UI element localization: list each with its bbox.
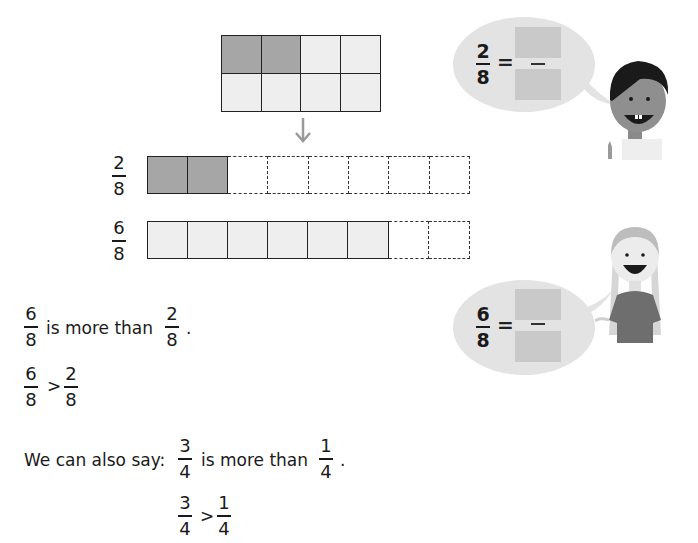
answer-denominator-box[interactable] bbox=[515, 69, 561, 100]
bar-segment-filled bbox=[267, 221, 309, 259]
numerator: 3 bbox=[179, 493, 190, 513]
fraction-line bbox=[531, 63, 545, 65]
statement2-left-fraction: 3 4 bbox=[178, 436, 192, 482]
equals-sign: = bbox=[497, 50, 514, 74]
grid-cell-shaded bbox=[222, 36, 262, 74]
bar-segment-empty bbox=[349, 156, 389, 194]
bar-segment-empty bbox=[268, 156, 308, 194]
grid-cell bbox=[341, 36, 381, 74]
answer-numerator-box[interactable] bbox=[515, 289, 561, 320]
bar-segment-filled bbox=[347, 221, 389, 259]
bar2-fraction-label: 6 8 bbox=[112, 218, 126, 264]
greater-than-symbol: > bbox=[200, 506, 214, 526]
grid-cell bbox=[341, 74, 381, 112]
denominator: 8 bbox=[476, 330, 489, 350]
numerator: 3 bbox=[179, 436, 190, 456]
denominator: 8 bbox=[113, 179, 124, 199]
inequality2-left-fraction: 3 4 bbox=[178, 493, 192, 539]
fraction-line bbox=[531, 323, 545, 325]
denominator: 8 bbox=[166, 330, 177, 350]
numerator: 2 bbox=[113, 153, 124, 173]
bar-segment-empty bbox=[389, 221, 430, 259]
boy-character-illustration bbox=[600, 55, 680, 160]
bubble-boy-fraction: 2 8 bbox=[476, 41, 490, 87]
bar-segment-empty bbox=[228, 156, 268, 194]
denominator: 8 bbox=[113, 244, 124, 264]
denominator: 8 bbox=[476, 67, 489, 87]
denominator: 8 bbox=[25, 390, 36, 410]
numerator: 6 bbox=[113, 218, 124, 238]
denominator: 4 bbox=[218, 519, 229, 539]
statement1-right-fraction: 2 8 bbox=[165, 304, 179, 350]
numerator: 6 bbox=[25, 364, 36, 384]
bar-segment-filled bbox=[227, 221, 269, 259]
fraction-bar-six-eighths bbox=[147, 221, 470, 259]
statement1-left-fraction: 6 8 bbox=[24, 304, 38, 350]
answer-denominator-box[interactable] bbox=[515, 331, 561, 362]
bar-segment-empty bbox=[429, 221, 470, 259]
bar-segment-empty bbox=[309, 156, 349, 194]
grid-cell-shaded bbox=[262, 36, 302, 74]
denominator: 4 bbox=[179, 519, 190, 539]
bubble-girl-fraction: 6 8 bbox=[476, 304, 490, 350]
denominator: 8 bbox=[65, 390, 76, 410]
inequality2-right-fraction: 1 4 bbox=[217, 493, 231, 539]
inequality1-right-fraction: 2 8 bbox=[64, 364, 78, 410]
bar-segment-filled bbox=[147, 221, 189, 259]
numerator: 2 bbox=[166, 304, 177, 324]
denominator: 4 bbox=[179, 462, 190, 482]
numerator: 1 bbox=[218, 493, 229, 513]
bar-segment-empty bbox=[430, 156, 470, 194]
grid-cell bbox=[262, 74, 302, 112]
greater-than-symbol: > bbox=[47, 376, 61, 396]
grid-cell bbox=[222, 74, 262, 112]
statement2-right-fraction: 1 4 bbox=[319, 436, 333, 482]
numerator: 1 bbox=[320, 436, 331, 456]
numerator: 6 bbox=[476, 304, 489, 324]
inequality1-left-fraction: 6 8 bbox=[24, 364, 38, 410]
statement1-text: is more than bbox=[46, 318, 153, 338]
equals-sign: = bbox=[497, 313, 514, 337]
numerator: 6 bbox=[25, 304, 36, 324]
down-arrow-icon bbox=[293, 116, 313, 144]
bar-segment-filled bbox=[187, 221, 229, 259]
denominator: 8 bbox=[25, 330, 36, 350]
numerator: 2 bbox=[476, 41, 489, 61]
bar-segment-empty bbox=[389, 156, 429, 194]
statement2-text: is more than bbox=[201, 450, 308, 470]
statement2-period: . bbox=[340, 450, 345, 470]
answer-numerator-box[interactable] bbox=[515, 27, 561, 58]
fraction-bar-two-eighths bbox=[147, 156, 470, 194]
bar-segment-filled bbox=[307, 221, 349, 259]
numerator: 2 bbox=[65, 364, 76, 384]
bar1-fraction-label: 2 8 bbox=[112, 153, 126, 199]
fraction-grid-model bbox=[221, 35, 381, 112]
statement1-period: . bbox=[186, 318, 191, 338]
bar-segment-shaded bbox=[187, 156, 228, 194]
girl-character-illustration bbox=[595, 225, 675, 345]
grid-cell bbox=[301, 74, 341, 112]
grid-cell bbox=[301, 36, 341, 74]
bar-segment-shaded bbox=[147, 156, 188, 194]
denominator: 4 bbox=[320, 462, 331, 482]
statement2-prefix: We can also say: bbox=[24, 450, 165, 470]
